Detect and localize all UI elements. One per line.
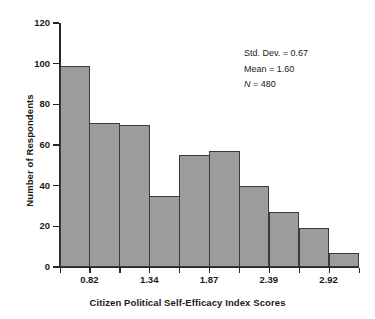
y-axis-title: Number of Respondents: [24, 56, 35, 246]
x-tick-mark: [89, 268, 90, 273]
x-tick-label: 1.34: [119, 274, 179, 285]
y-tick-label: 0: [10, 261, 50, 272]
x-tick-mark: [179, 268, 180, 273]
histogram-bar: [239, 186, 270, 267]
y-tick-label: 120: [10, 17, 50, 28]
y-tick-label: 40: [10, 180, 50, 191]
x-tick-mark: [119, 268, 120, 273]
histogram-bar: [60, 66, 91, 267]
std-dev-text: Std. Dev. = 0.67: [244, 46, 308, 62]
x-tick-mark: [299, 268, 300, 273]
histogram-bar: [149, 196, 180, 267]
x-tick-label: 2.39: [239, 274, 299, 285]
mean-text: Mean = 1.60: [244, 62, 308, 78]
x-axis-title: Citizen Political Self-Efficacy Index Sc…: [0, 297, 375, 308]
y-tick-label: 80: [10, 98, 50, 109]
y-tick-label: 20: [10, 220, 50, 231]
histogram-bar: [269, 212, 300, 267]
y-tick-mark: [53, 22, 59, 24]
x-tick-mark: [239, 268, 240, 273]
y-tick-mark: [53, 104, 59, 106]
histogram-bars: [60, 23, 359, 267]
x-tick-mark: [60, 268, 61, 273]
y-tick-label: 60: [10, 139, 50, 150]
histogram-bar: [119, 125, 150, 267]
histogram-bar: [89, 123, 120, 267]
x-tick-mark: [329, 268, 330, 273]
x-tick-label: 0.82: [59, 274, 119, 285]
histogram-bar: [299, 228, 330, 267]
histogram-bar: [179, 155, 210, 267]
histogram-bar: [209, 151, 240, 267]
n-text: N = 480: [244, 77, 308, 93]
x-tick-mark: [149, 268, 150, 273]
x-tick-mark: [359, 268, 360, 273]
histogram-bar: [329, 253, 360, 267]
histogram-figure: Number of Respondents 120100806040200 0.…: [0, 0, 375, 319]
y-tick-mark: [53, 144, 59, 146]
y-tick-mark: [53, 63, 59, 65]
n-value: = 480: [251, 79, 276, 89]
y-tick-mark: [53, 185, 59, 187]
y-tick-label: 100: [10, 58, 50, 69]
stats-annotation: Std. Dev. = 0.67 Mean = 1.60 N = 480: [244, 46, 308, 93]
x-tick-label: 1.87: [179, 274, 239, 285]
x-tick-mark: [209, 268, 210, 273]
x-tick-label: 2.92: [299, 274, 359, 285]
x-tick-mark: [269, 268, 270, 273]
y-tick-mark: [53, 226, 59, 228]
